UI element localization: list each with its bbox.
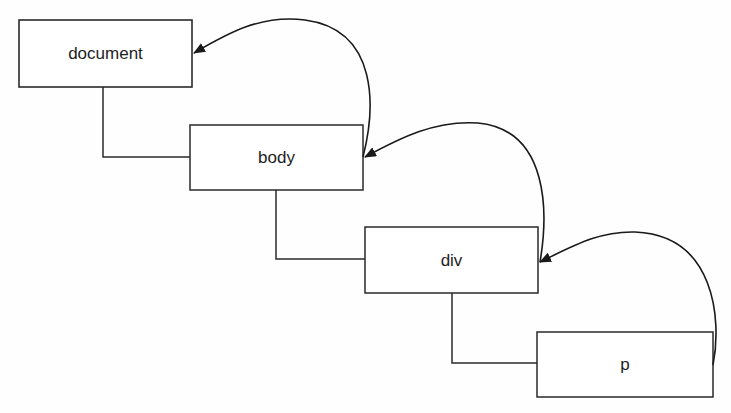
bubbling-arrows — [194, 19, 716, 365]
node-p-label: p — [620, 355, 629, 374]
connector-div-p — [452, 293, 537, 363]
connector-body-div — [276, 190, 365, 259]
node-document-label: document — [68, 44, 143, 63]
node-body: body — [190, 125, 363, 190]
diagram-canvas: document body div p — [0, 0, 731, 413]
node-body-label: body — [258, 148, 295, 167]
node-div-label: div — [441, 251, 463, 270]
node-div: div — [365, 227, 538, 293]
dom-tree-diagram: document body div p — [0, 0, 731, 413]
node-document: document — [19, 20, 192, 87]
connector-document-body — [103, 87, 190, 157]
node-p: p — [537, 332, 713, 397]
